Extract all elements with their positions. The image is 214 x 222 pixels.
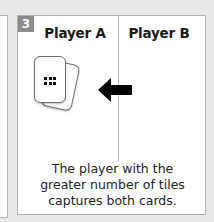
caption: The player with the greater number of ti… xyxy=(18,161,207,209)
caption-line-2: greater number of tiles xyxy=(18,177,207,193)
arrow-left-icon xyxy=(98,78,132,102)
caption-line-1: The player with the xyxy=(18,161,207,177)
card-front xyxy=(34,56,66,103)
previous-panel-edge xyxy=(0,15,8,218)
player-a-header: Player A xyxy=(30,25,120,41)
step-panel: 3 Player A Player B The player with the … xyxy=(17,15,206,215)
dot-grid-icon xyxy=(44,77,56,85)
player-b-header: Player B xyxy=(114,25,204,41)
caption-line-3: captures both cards. xyxy=(18,193,207,209)
